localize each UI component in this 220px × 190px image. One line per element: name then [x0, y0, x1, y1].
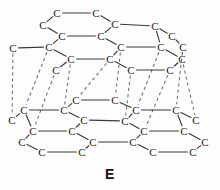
carbon-atom-label: C: [39, 19, 46, 31]
graphite-lattice-svg: CCCCCCCCCCCCCCCCCCCCCCCCCCCCCCCCCCCCCCCC…: [0, 0, 220, 170]
carbon-atom-label: C: [78, 146, 85, 158]
carbon-atom-label: C: [129, 136, 136, 148]
carbon-atom-label: C: [178, 53, 185, 65]
carbon-carbon-bond: [160, 29, 167, 33]
carbon-carbon-bond: [19, 47, 44, 48]
carbon-carbon-bond: [197, 146, 200, 149]
carbon-atom-label: C: [117, 41, 124, 53]
carbon-carbon-bond: [48, 28, 57, 33]
carbon-carbon-bond: [121, 24, 150, 25]
carbon-atom-label: C: [166, 64, 173, 76]
carbon-atom-label: C: [121, 115, 128, 127]
carbon-carbon-bond: [47, 17, 53, 22]
carbon-atom-label: C: [29, 125, 36, 137]
carbon-atom-label: C: [92, 7, 99, 19]
carbon-atom-label: C: [68, 125, 75, 137]
carbon-atom-label: C: [9, 42, 16, 54]
carbon-atom-label: C: [38, 146, 45, 158]
interlayer-bond: [146, 75, 168, 126]
carbon-carbon-bond: [130, 124, 139, 129]
carbon-atom-label: C: [132, 104, 139, 116]
carbon-atom-label: C: [80, 114, 87, 126]
carbon-atom-label: C: [97, 30, 104, 42]
carbon-atom-label: C: [180, 125, 187, 137]
carbon-atom-label: C: [20, 104, 27, 116]
interlayer-bond: [183, 64, 195, 114]
carbon-carbon-bond: [115, 62, 126, 68]
carbon-carbon-bond: [16, 114, 19, 117]
graphite-structure-figure: CCCCCCCCCCCCCCCCCCCCCCCCCCCCCCCCCCCCCCCC…: [0, 0, 220, 190]
carbon-atom-label: C: [201, 136, 208, 148]
carbon-atom-label: C: [172, 104, 179, 116]
carbon-carbon-bond: [77, 134, 88, 140]
carbon-carbon-bond: [53, 40, 57, 44]
carbon-carbon-bond: [68, 104, 71, 107]
carbon-atom-label: C: [151, 20, 158, 32]
carbon-atom-label: C: [157, 41, 164, 53]
carbon-carbon-bond: [27, 145, 37, 150]
interlayer-bond: [80, 63, 107, 95]
figure-caption: E: [0, 166, 220, 182]
interlayer-bond: [12, 54, 13, 115]
carbon-atom-label: C: [127, 64, 134, 76]
carbon-carbon-bond: [106, 39, 116, 45]
interlayer-bond: [35, 75, 54, 126]
carbon-carbon-bond: [54, 50, 66, 57]
carbon-atom-label: C: [111, 18, 118, 30]
carbon-carbon-bond: [61, 62, 67, 66]
carbon-atom-label: C: [45, 41, 52, 53]
carbon-carbon-bond: [120, 102, 131, 107]
carbon-atom-label: C: [168, 30, 175, 42]
carbon-atom-label: C: [106, 53, 113, 65]
interlayer-bond: [65, 65, 70, 105]
carbon-atom-label: C: [189, 146, 196, 158]
interlayer-bond: [138, 52, 159, 105]
carbon-atom-label: C: [140, 125, 147, 137]
interlayer-bond: [26, 52, 47, 105]
interlayer-bond: [116, 53, 121, 95]
carbon-atom-label: C: [89, 136, 96, 148]
carbon-atom-label: C: [58, 30, 65, 42]
carbon-carbon-bond: [101, 16, 110, 21]
interlayer-bond: [126, 76, 131, 116]
carbon-carbon-bond: [76, 124, 80, 127]
carbon-carbon-bond: [174, 63, 178, 66]
carbon-atom-label: C: [149, 146, 156, 158]
carbon-carbon-bond: [69, 113, 79, 118]
carbon-atom-label: C: [67, 53, 74, 65]
carbon-carbon-bond: [138, 145, 148, 150]
carbon-atom-label: C: [179, 41, 186, 53]
carbon-atom-label: C: [53, 7, 60, 19]
carbon-atom-label: C: [18, 136, 25, 148]
carbon-atom-label: C: [192, 114, 199, 126]
carbon-carbon-bond: [105, 28, 111, 33]
carbon-carbon-bond: [166, 50, 177, 56]
carbon-carbon-bond: [181, 113, 191, 118]
carbon-atom-label: C: [8, 114, 15, 126]
carbon-carbon-bond: [189, 134, 200, 140]
carbon-atom-label: C: [72, 94, 79, 106]
carbon-atom-label: C: [111, 94, 118, 106]
carbon-carbon-bond: [90, 120, 120, 121]
carbon-atom-label: C: [60, 104, 67, 116]
carbon-atom-label: C: [52, 64, 59, 76]
